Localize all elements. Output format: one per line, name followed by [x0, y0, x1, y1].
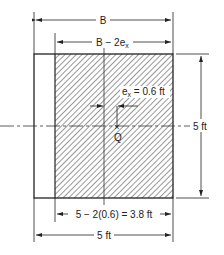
dim-effective-label: B − 2ex	[96, 37, 129, 49]
dim-right-label: 5 ft	[193, 121, 207, 132]
dim-b-label: B	[100, 15, 107, 26]
footing-diagram: B B − 2ex ex = 0.6 ft × Q 5 ft 5 − 2(0.6…	[0, 0, 224, 255]
load-point-marker: ×	[114, 122, 119, 132]
dim-bottom-label: 5 ft	[97, 230, 111, 241]
point-q-label: Q	[114, 132, 122, 143]
dim-bottom-effective-label: 5 − 2(0.6) = 3.8 ft	[76, 209, 153, 220]
